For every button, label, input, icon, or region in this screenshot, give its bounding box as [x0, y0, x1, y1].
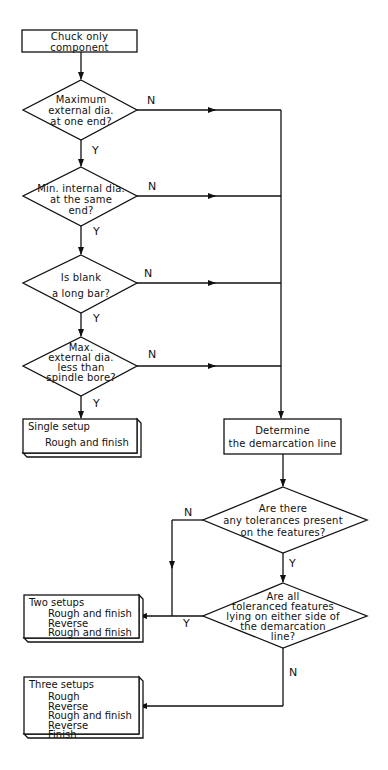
outcome-two-setups: Two setups Rough and finish Reverse Roug…: [24, 595, 139, 638]
d2-yes-label: Y: [93, 226, 100, 238]
d1-line-1: Maximum: [31, 94, 131, 105]
d6-no-label: N: [289, 667, 297, 679]
start-label-line1: Chuck only: [22, 31, 137, 42]
determine-line-2: the demarcation line: [224, 437, 341, 450]
d2-line-1: Min. internal dia.: [26, 183, 136, 194]
d1-no-label: N: [147, 95, 155, 107]
single-setup-title: Single setup: [28, 422, 90, 432]
d2-line-2: at the same: [26, 194, 136, 205]
two-setups-title: Two setups: [29, 598, 84, 608]
d1-line-2: external dia.: [31, 105, 131, 116]
determine-line-1: Determine: [224, 424, 341, 437]
d4-line-4: spindle bore?: [31, 373, 131, 383]
d3-yes-label: Y: [93, 313, 100, 325]
decision-d4: Max. external dia. less than spindle bor…: [31, 343, 131, 383]
outcome-three-setups: Three setups Rough Reverse Rough and fin…: [24, 677, 139, 734]
decision-d3: Is blank a long bar?: [31, 270, 131, 302]
two-setups-step-3: Rough and finish: [48, 628, 132, 638]
d2-no-label: N: [148, 181, 156, 193]
d5-no-label: N: [184, 507, 192, 519]
three-setups-title: Three setups: [29, 680, 94, 690]
d3-line-1: Is blank: [31, 270, 131, 286]
decision-d1: Maximum external dia. at one end?: [31, 94, 131, 127]
start-label-line2: component: [22, 42, 137, 53]
process-determine-demarcation: Determine the demarcation line: [224, 424, 341, 450]
d6-yes-label: Y: [183, 618, 190, 630]
start-node: Chuck only component: [22, 31, 137, 53]
decision-d2: Min. internal dia. at the same end?: [26, 183, 136, 216]
d3-line-2: a long bar?: [31, 286, 131, 302]
decision-d6: Are all toleranced features lying on eit…: [218, 592, 348, 642]
d4-no-label: N: [148, 349, 156, 361]
single-setup-step-1: Rough and finish: [45, 438, 129, 448]
decision-d5: Are there any tolerances present on the …: [218, 503, 348, 539]
d5-line-2: any tolerances present: [218, 515, 348, 527]
d1-line-3: at one end?: [31, 116, 131, 127]
three-setups-step-5: Finish: [48, 730, 132, 740]
d4-yes-label: Y: [93, 398, 100, 410]
d1-yes-label: Y: [92, 145, 99, 157]
d5-yes-label: Y: [289, 558, 296, 570]
d3-no-label: N: [144, 268, 152, 280]
outcome-single-setup: Single setup Rough and finish: [23, 419, 137, 453]
d5-line-1: Are there: [218, 503, 348, 515]
d6-line-5: line?: [218, 632, 348, 642]
d5-line-3: on the features?: [218, 527, 348, 539]
d2-line-3: end?: [26, 205, 136, 216]
